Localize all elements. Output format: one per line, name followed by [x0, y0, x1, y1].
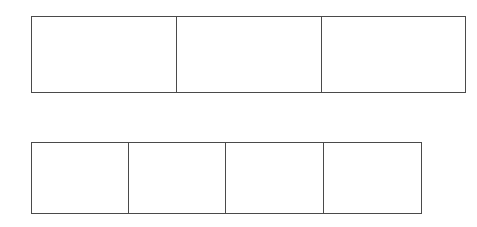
bottom-bar-cell-1	[32, 143, 129, 213]
top-bar-cell-2	[177, 17, 322, 92]
top-bar	[31, 16, 466, 93]
top-bar-cell-3	[322, 17, 467, 92]
top-bar-cell-1	[32, 17, 177, 92]
figure-canvas	[0, 0, 477, 227]
bottom-bar-cell-4	[324, 143, 423, 213]
bottom-bar-cell-3	[226, 143, 324, 213]
bottom-bar-cell-2	[129, 143, 226, 213]
bottom-bar	[31, 142, 422, 214]
